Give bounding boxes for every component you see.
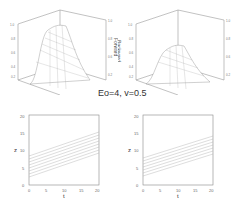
svg-text:1.0: 1.0 bbox=[108, 19, 113, 23]
svg-text:0.2: 0.2 bbox=[129, 75, 134, 79]
contour-xlabel: t bbox=[63, 193, 65, 199]
svg-text:15: 15 bbox=[134, 131, 139, 136]
svg-text:0.2: 0.2 bbox=[11, 75, 16, 79]
svg-text:15: 15 bbox=[20, 131, 25, 136]
svg-text:5: 5 bbox=[45, 188, 48, 193]
forward-contour-plot: 05101520 05101520 z t bbox=[0, 100, 118, 199]
backward-contour-plot: 05101520 05101520 z t bbox=[118, 100, 236, 199]
contour-xlabel: t bbox=[177, 193, 179, 199]
svg-text:0.6: 0.6 bbox=[108, 55, 113, 59]
svg-text:10: 10 bbox=[20, 148, 25, 153]
svg-text:0.8: 0.8 bbox=[129, 37, 134, 41]
svg-text:0.4: 0.4 bbox=[129, 65, 134, 69]
backward-zlabel: Backward bbox=[118, 40, 122, 62]
svg-text:0: 0 bbox=[142, 188, 145, 193]
parameter-caption: Eo=4, v=0.5 bbox=[98, 88, 147, 98]
svg-text:5: 5 bbox=[159, 188, 162, 193]
svg-text:10: 10 bbox=[134, 148, 139, 153]
contour-ylabel: z bbox=[128, 147, 131, 153]
svg-text:0.6: 0.6 bbox=[226, 55, 231, 59]
backward-surface-plot: 1.00.80.6 0.40.2 1.00.80.60.2 Backward bbox=[118, 0, 236, 95]
svg-text:20: 20 bbox=[134, 114, 139, 119]
svg-text:0.2: 0.2 bbox=[226, 73, 231, 77]
svg-text:0: 0 bbox=[22, 183, 25, 188]
svg-text:15: 15 bbox=[79, 188, 84, 193]
svg-text:1.0: 1.0 bbox=[10, 23, 15, 27]
svg-text:0.2: 0.2 bbox=[108, 73, 113, 77]
forward-surface-plot: 1.00.80.6 0.40.2 1.00.80.60.2 Forward bbox=[0, 0, 118, 95]
svg-text:0.6: 0.6 bbox=[11, 51, 16, 55]
svg-text:1.0: 1.0 bbox=[226, 19, 231, 23]
svg-text:20: 20 bbox=[20, 114, 25, 119]
svg-text:0: 0 bbox=[28, 188, 31, 193]
svg-text:0.8: 0.8 bbox=[108, 37, 113, 41]
svg-text:20: 20 bbox=[95, 188, 100, 193]
svg-text:0.8: 0.8 bbox=[11, 37, 16, 41]
svg-text:0.6: 0.6 bbox=[129, 51, 134, 55]
svg-text:15: 15 bbox=[193, 188, 198, 193]
svg-text:0: 0 bbox=[136, 183, 139, 188]
svg-text:5: 5 bbox=[22, 166, 25, 171]
svg-text:0.4: 0.4 bbox=[11, 65, 16, 69]
svg-text:5: 5 bbox=[136, 166, 139, 171]
contour-ylabel: z bbox=[14, 147, 17, 153]
svg-text:20: 20 bbox=[209, 188, 214, 193]
svg-text:0.8: 0.8 bbox=[226, 37, 231, 41]
svg-text:1.0: 1.0 bbox=[128, 23, 133, 27]
